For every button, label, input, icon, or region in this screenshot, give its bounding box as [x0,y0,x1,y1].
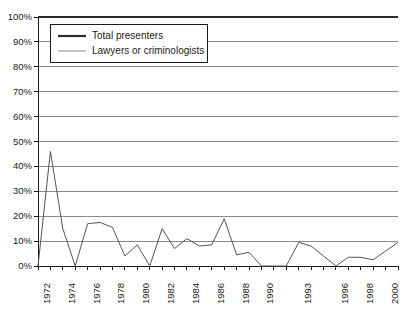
y-axis-tick-label: 20% [0,211,32,221]
y-axis-tick-label: 40% [0,161,32,171]
y-axis-tick-label: 90% [0,37,32,47]
x-axis-tick-label: 1986 [216,283,226,304]
y-axis-tick-label: 80% [0,62,32,72]
y-axis-tick-label: 30% [0,186,32,196]
series-line [38,151,398,266]
x-axis-tick-label: 1990 [265,283,275,304]
y-axis-tick-label: 0% [0,261,32,271]
x-axis-tick-label: 1978 [116,283,126,304]
x-axis-tick-label: 1972 [42,283,52,304]
line-chart-plot [0,0,409,314]
x-axis-tick-label: 1980 [141,283,151,304]
y-axis-tick-label: 70% [0,87,32,97]
legend-item-label: Lawyers or criminologists [92,45,204,56]
y-axis-tick-label: 10% [0,236,32,246]
chart-container: 0%10%20%30%40%50%60%70%80%90%100% 197219… [0,0,409,314]
x-axis-tick-label: 1974 [67,283,77,304]
x-axis-tick-label: 1976 [92,283,102,304]
legend-item-label: Total presenters [92,30,163,41]
x-axis-tick-label: 1996 [340,283,350,304]
x-axis-tick-label: 1982 [166,283,176,304]
y-axis-tick-label: 60% [0,112,32,122]
x-axis-tick-label: 1998 [365,283,375,304]
x-axis-tick-label: 1984 [191,283,201,304]
x-axis-tick-label: 1988 [241,283,251,304]
x-axis-tick-label: 2000 [390,283,400,304]
x-axis-tick-label: 1993 [303,283,313,304]
y-axis-tick-label: 100% [0,12,32,22]
y-axis-tick-label: 50% [0,137,32,147]
